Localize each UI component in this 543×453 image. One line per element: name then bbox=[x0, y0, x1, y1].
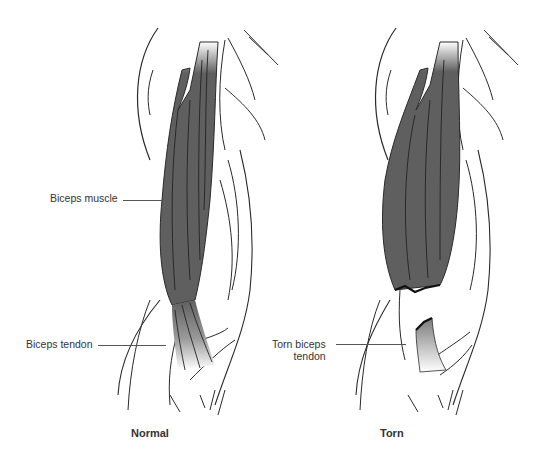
caption-torn: Torn bbox=[380, 427, 404, 439]
biceps-illustration bbox=[0, 0, 543, 453]
leader-biceps-muscle bbox=[123, 200, 163, 201]
leader-biceps-tendon bbox=[98, 345, 166, 346]
leader-torn-biceps-tendon bbox=[336, 344, 406, 345]
label-biceps-muscle: Biceps muscle bbox=[50, 192, 118, 204]
torn-biceps-muscle bbox=[382, 42, 459, 290]
label-torn-line2: tendon bbox=[272, 350, 326, 362]
label-torn-line1: Torn biceps bbox=[272, 338, 326, 350]
label-torn-biceps-tendon: Torn biceps tendon bbox=[272, 338, 326, 362]
label-biceps-tendon: Biceps tendon bbox=[26, 338, 93, 350]
caption-normal: Normal bbox=[131, 427, 169, 439]
